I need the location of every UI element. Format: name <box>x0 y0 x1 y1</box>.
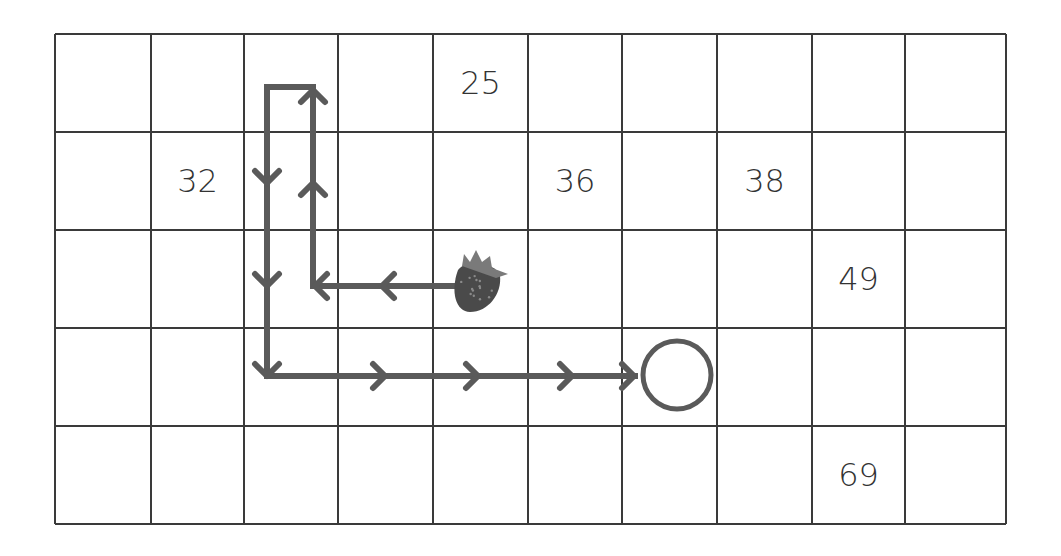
cell-number-label: 69 <box>838 456 879 494</box>
strawberry-seed <box>478 285 480 287</box>
strawberry-seed <box>473 275 475 277</box>
path-line <box>267 87 638 376</box>
strawberry-seed <box>473 294 475 296</box>
cell-number-label: 32 <box>177 162 218 200</box>
strawberry-seed <box>460 281 462 283</box>
strawberry-seed <box>488 296 490 298</box>
circle-target-icon <box>643 341 711 409</box>
grid-board: 253236384969 <box>0 0 1061 556</box>
strawberry-seed <box>475 279 477 281</box>
strawberry-icon <box>454 250 508 312</box>
strawberry-seed <box>479 280 481 282</box>
cell-number-label: 38 <box>744 162 785 200</box>
cell-number-label: 25 <box>460 64 501 102</box>
strawberry-seed <box>491 289 493 291</box>
strawberry-seed <box>472 289 474 291</box>
strawberry-seed <box>479 298 481 300</box>
cell-number-label: 36 <box>555 162 596 200</box>
cell-number-label: 49 <box>838 260 879 298</box>
strawberry-seed <box>469 293 471 295</box>
strawberry-seed <box>468 277 470 279</box>
